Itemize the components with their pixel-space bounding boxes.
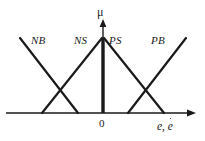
- x-axis: [6, 109, 196, 116]
- x-axis-label-separator: ,: [162, 120, 165, 132]
- membership-curve-ps: [104, 38, 164, 113]
- y-axis-label: μ: [97, 6, 103, 18]
- ns-rising-edge: [42, 38, 102, 113]
- set-label-pb: PB: [151, 35, 165, 46]
- set-label-ps: PS: [109, 35, 122, 46]
- pb-ascending-edge: [128, 38, 186, 113]
- y-axis: [100, 19, 107, 113]
- x-axis-label-edot-letter: e: [168, 120, 173, 132]
- y-axis-arrowhead: [100, 19, 107, 27]
- fuzzy-membership-figure: μ NB NS PS PB 0 e, e: [0, 0, 205, 141]
- x-axis-label-edot: e: [168, 121, 173, 133]
- origin-label: 0: [99, 118, 105, 129]
- x-axis-label: e, e: [157, 121, 173, 133]
- set-label-nb: NB: [31, 35, 45, 46]
- set-label-ns: NS: [74, 35, 87, 46]
- x-axis-arrowhead: [187, 109, 196, 116]
- membership-curve-pb: [128, 38, 186, 113]
- membership-curve-ns: [42, 38, 102, 113]
- nb-descending-edge: [20, 38, 78, 113]
- ps-falling-edge: [104, 38, 164, 113]
- membership-curve-nb: [20, 38, 78, 113]
